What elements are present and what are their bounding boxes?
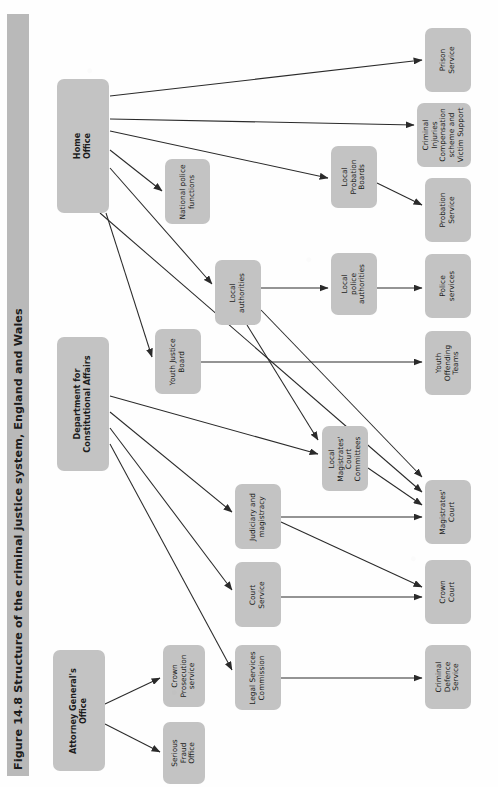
node-dept-constitutional: Department for Constitutional Affairs — [57, 337, 109, 471]
node-label-local-authorities: Local authorities — [229, 273, 246, 313]
node-youth-justice-board: Youth Justice Board — [155, 329, 201, 394]
node-label-crown-prosecution: Crown Prosecution service — [171, 654, 197, 697]
node-label-home-office: Home Office — [73, 133, 92, 159]
node-local-authorities: Local authorities — [215, 260, 261, 325]
node-label-local-probation-boards: Local Probation Boards — [341, 159, 367, 194]
node-label-court-service: Court Service — [249, 581, 266, 608]
node-label-youth-justice-board: Youth Justice Board — [169, 338, 186, 385]
node-criminal-injuries: Criminal Injuries Compensation scheme an… — [417, 103, 471, 167]
node-label-youth-offending-teams: Youth Offending Teams — [435, 345, 461, 381]
arrow-dept-constitutional-to-local-mag-committees — [110, 396, 318, 454]
node-home-office: Home Office — [57, 79, 109, 213]
node-label-magistrates-court: Magistrates' Court — [439, 489, 456, 534]
node-legal-services-comm: Legal Services Commission — [235, 645, 281, 710]
node-court-service: Court Service — [235, 562, 281, 627]
arrow-attorney-general-to-crown-prosecution — [105, 678, 160, 704]
node-label-judiciary-magistracy: Judiciary and magistracy — [249, 493, 266, 541]
arrow-home-office-to-criminal-injuries — [110, 119, 414, 125]
node-label-serious-fraud: Serious Fraud Office — [171, 739, 197, 766]
node-crown-prosecution: Crown Prosecution service — [163, 645, 205, 707]
arrow-dept-constitutional-to-legal-services-comm — [110, 444, 232, 670]
node-police-services: Police services — [425, 254, 471, 318]
arrow-home-office-to-national-police — [110, 150, 162, 191]
node-label-police-services: Police services — [439, 271, 456, 301]
node-label-crown-court: Crown Court — [439, 580, 456, 603]
node-label-local-mag-committees: Local Magistrates' Court Committees — [328, 436, 363, 481]
node-local-mag-committees: Local Magistrates' Court Committees — [322, 426, 368, 491]
figure-title: Figure 14.8 Structure of the criminal ju… — [7, 14, 29, 776]
node-label-legal-services-comm: Legal Services Commission — [249, 651, 266, 704]
node-attorney-general: Attorney General's Office — [53, 650, 105, 771]
node-label-prison-service: Prison Service — [439, 46, 456, 73]
node-judiciary-magistracy: Judiciary and magistracy — [235, 484, 281, 549]
node-prison-service: Prison Service — [425, 28, 471, 92]
arrow-home-office-to-youth-justice-board — [106, 213, 152, 357]
node-label-national-police: National police functions — [179, 164, 196, 219]
node-criminal-defence: Criminal Defence Service — [425, 645, 471, 709]
arrow-local-probation-boards-to-probation-service — [377, 183, 422, 205]
node-label-criminal-defence: Criminal Defence Service — [435, 662, 461, 693]
node-local-probation-boards: Local Probation Boards — [331, 146, 377, 208]
arrow-local-mag-committees-to-magistrates-court — [368, 468, 422, 505]
arrow-judiciary-magistracy-to-crown-court — [281, 522, 422, 587]
node-label-dept-constitutional: Department for Constitutional Affairs — [73, 355, 92, 452]
arrow-attorney-general-to-serious-fraud — [105, 724, 160, 752]
arrow-home-office-to-local-probation-boards — [110, 131, 328, 178]
node-label-local-police-auth: Local police authorities — [341, 264, 367, 304]
arrow-dept-constitutional-to-court-service — [110, 428, 232, 590]
node-national-police: National police functions — [165, 159, 210, 224]
node-probation-service: Probation Service — [425, 178, 471, 242]
arrow-dept-constitutional-to-judiciary-magistracy — [110, 412, 232, 512]
node-youth-offending-teams: Youth Offending Teams — [425, 331, 471, 395]
node-label-attorney-general: Attorney General's Office — [69, 668, 88, 754]
node-crown-court: Crown Court — [425, 560, 471, 624]
node-magistrates-court: Magistrates' Court — [425, 480, 471, 544]
arrow-home-office-to-prison-service — [110, 60, 422, 96]
arrow-local-authorities-to-local-mag-committees — [247, 325, 318, 440]
node-serious-fraud: Serious Fraud Office — [163, 722, 205, 784]
node-local-police-auth: Local police authorities — [331, 253, 377, 315]
node-label-criminal-injuries: Criminal Injuries Compensation scheme an… — [422, 108, 466, 163]
figure-canvas: Figure 14.8 Structure of the criminal ju… — [0, 0, 498, 787]
node-label-probation-service: Probation Service — [439, 192, 456, 227]
